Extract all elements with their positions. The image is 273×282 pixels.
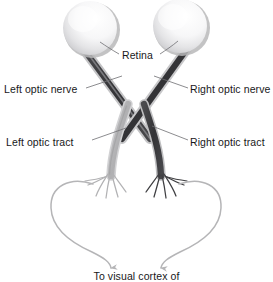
visual-pathway-figure: Retina Left optic nerve Right optic nerv… — [0, 0, 273, 282]
right-eye — [153, 0, 210, 56]
left-optic-radiation-fibers — [85, 174, 126, 198]
label-left-optic-nerve: Left optic nerve — [4, 83, 77, 95]
right-optic-radiation-loop — [161, 181, 221, 268]
label-right-optic-tract: Right optic tract — [190, 136, 265, 148]
label-to-visual-cortex: To visual cortex of — [0, 270, 273, 282]
label-right-optic-nerve: Right optic nerve — [190, 83, 271, 95]
left-optic-radiation-loop — [51, 181, 111, 268]
right-optic-radiation-fibers — [146, 174, 187, 198]
label-retina: Retina — [122, 49, 153, 61]
label-left-optic-tract: Left optic tract — [6, 136, 74, 148]
